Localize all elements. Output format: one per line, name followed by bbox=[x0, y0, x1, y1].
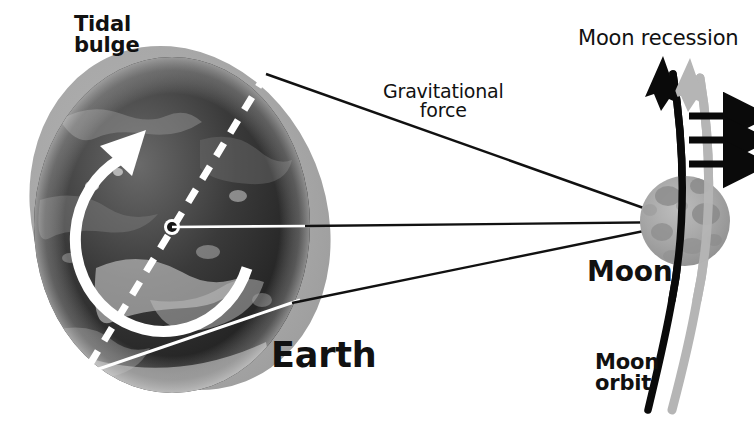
moon-recession-label: Moon recession bbox=[578, 28, 738, 49]
moon-orbit-label: Moonorbit bbox=[595, 352, 659, 394]
tidal-bulge-label-line1: Tidal bbox=[74, 12, 131, 36]
gravitational-force-label: Gravitationalforce bbox=[383, 82, 504, 121]
earth-label: Earth bbox=[271, 338, 376, 374]
tidal-diagram-root: Tidalbulge Gravitationalforce Moon reces… bbox=[0, 0, 754, 437]
gravitational-force-label-line2: force bbox=[420, 99, 467, 121]
moon-orbit-label-line2: orbit bbox=[595, 371, 651, 395]
tidal-bulge-label-line2: bulge bbox=[74, 33, 139, 57]
tidal-bulge-label: Tidalbulge bbox=[74, 14, 139, 57]
moon-label: Moon bbox=[587, 258, 672, 287]
